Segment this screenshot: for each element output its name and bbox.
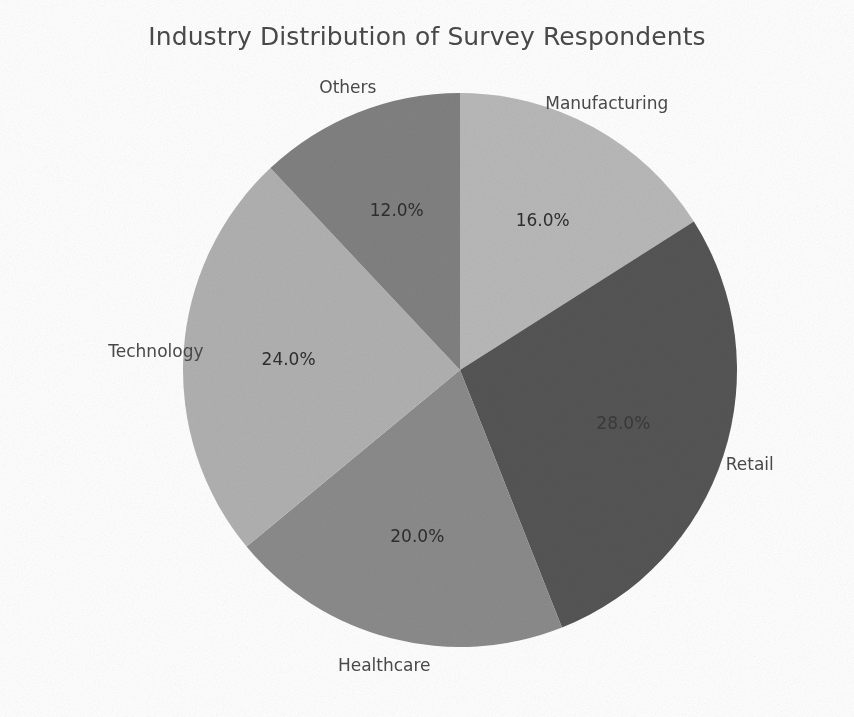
slice-percent-healthcare: 20.0%	[390, 526, 444, 546]
slice-percent-others: 12.0%	[370, 200, 424, 220]
slice-percent-retail: 28.0%	[596, 413, 650, 433]
slice-label-manufacturing: Manufacturing	[545, 93, 668, 113]
pie-chart-figure: Industry Distribution of Survey Responde…	[0, 0, 854, 717]
slice-label-retail: Retail	[726, 454, 774, 474]
slice-label-technology: Technology	[108, 341, 203, 361]
pie-chart-plot-area: Manufacturing Retail Healthcare Technolo…	[182, 92, 738, 648]
slice-label-others: Others	[319, 77, 376, 97]
pie-slices-group	[182, 92, 738, 648]
slice-percent-manufacturing: 16.0%	[516, 210, 570, 230]
chart-title: Industry Distribution of Survey Responde…	[0, 22, 854, 51]
slice-percent-technology: 24.0%	[262, 349, 316, 369]
slice-label-healthcare: Healthcare	[338, 655, 431, 675]
